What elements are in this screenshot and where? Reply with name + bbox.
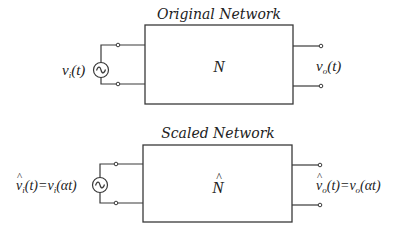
network-scaling-diagram: Original Network N vi(t) vo(t) Scaled [0, 0, 408, 237]
input-port [101, 43, 145, 86]
scaled-network-title: Scaled Network [161, 125, 275, 141]
ac-voltage-source-icon [94, 63, 109, 78]
output-terminal-top [319, 44, 323, 48]
scaled-input-wire-bottom [100, 192, 143, 203]
original-network: Original Network N vi(t) vo(t) [62, 6, 341, 104]
input-terminal-top [116, 43, 120, 47]
scaled-output-terminal-bottom [318, 203, 322, 207]
input-terminal-bottom [116, 82, 120, 86]
scaled-ac-voltage-source-icon [93, 178, 108, 193]
scaled-input-voltage-label: vi(t)=vi(αt) [16, 178, 77, 195]
input-wire-bottom [101, 77, 145, 84]
input-voltage-label: vi(t) [62, 62, 85, 80]
hat-accent-input: ^ [17, 170, 23, 182]
scaled-input-terminal-bottom [114, 201, 118, 205]
scaled-output-terminal-top [318, 163, 322, 167]
scaled-input-terminal-top [114, 162, 118, 166]
network-label-n: N [212, 57, 226, 76]
output-voltage-label: vo(t) [316, 58, 341, 76]
hat-accent-output: ^ [317, 170, 323, 182]
scaled-output-voltage-label: vo(t)=vo(αt) [316, 178, 381, 195]
scaled-input-wire-top [100, 164, 143, 178]
input-wire-top [101, 45, 145, 63]
hat-accent-n: ^ [216, 170, 222, 184]
original-network-title: Original Network [157, 6, 281, 22]
output-terminal-bottom [319, 84, 323, 88]
scaled-network: Scaled Network N ^ vi(t)=vi(αt) ^ vo(t)=… [16, 125, 381, 222]
